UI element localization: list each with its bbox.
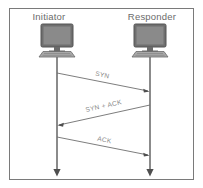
computer-monitor-icon-responder: [132, 24, 168, 57]
computer-monitor-icon-initiator: [39, 24, 75, 57]
actor-label-initiator: Initiator: [33, 11, 66, 22]
actor-label-responder: Responder: [128, 11, 176, 22]
sequence-diagram: Initiator Responder: [0, 0, 203, 188]
diagram-canvas: Initiator Responder: [0, 0, 203, 188]
